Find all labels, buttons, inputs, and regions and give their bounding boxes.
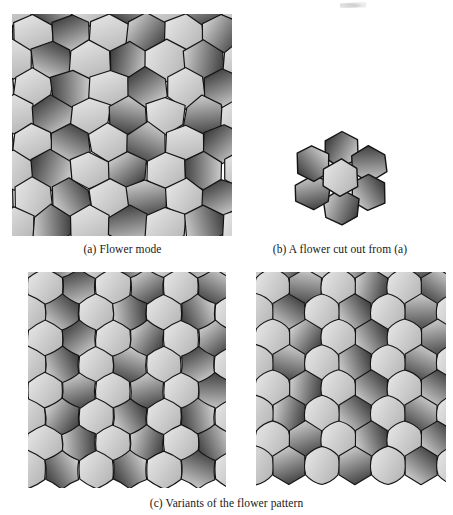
caption-b: (b) A flower cut out from (a) (240, 243, 440, 255)
panel-a-flower-mode (12, 14, 232, 236)
scan-artifact-speck (340, 2, 366, 9)
panel-c-variant-left (28, 272, 226, 488)
figure-root: (a) Flower mode (b) A flower cut out fro… (0, 0, 453, 515)
caption-c: (c) Variants of the flower pattern (0, 497, 453, 509)
caption-a: (a) Flower mode (0, 243, 245, 255)
panel-b-single-flower (282, 124, 400, 232)
panel-c-variant-right (256, 272, 446, 488)
